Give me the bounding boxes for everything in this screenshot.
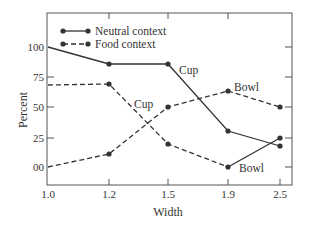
legend-food-label: Food context — [95, 38, 156, 50]
series-food-cup — [48, 81, 231, 169]
series-food-bowl — [48, 88, 283, 167]
annotation-bowl-food: Bowl — [234, 81, 259, 93]
x-tick-label: 1.0 — [41, 188, 55, 200]
y-tick-label: 25 — [33, 132, 45, 144]
line-chart: 100 75 50 25 00 1.0 1.2 1.5 1.9 2.5 Widt… — [0, 0, 309, 231]
y-tick-label: 100 — [28, 41, 45, 53]
x-axis-title: Width — [153, 205, 183, 219]
annotation-cup-food: Cup — [134, 98, 153, 111]
y-axis-title: Percent — [16, 91, 30, 128]
x-tick-label: 1.5 — [161, 188, 175, 200]
annotation-cup-neutral: Cup — [179, 64, 198, 77]
y-tick-label: 75 — [33, 71, 45, 83]
series-neutral-cup — [48, 47, 283, 149]
legend: Neutral context Food context — [60, 25, 167, 50]
y-tick-label: 00 — [33, 161, 45, 173]
x-tick-label: 1.9 — [221, 188, 235, 200]
x-tick-label: 2.5 — [273, 188, 287, 200]
x-tick-label: 1.2 — [102, 188, 116, 200]
y-tick-label: 50 — [33, 101, 45, 113]
annotation-bowl-neutral: Bowl — [239, 162, 264, 174]
legend-neutral-label: Neutral context — [95, 25, 167, 37]
